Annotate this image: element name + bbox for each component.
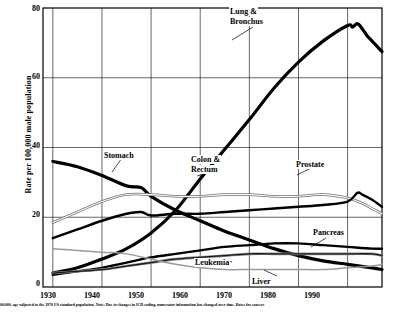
- y-tick-0: 0: [14, 279, 40, 288]
- annotation-colon-line2: Rectum: [190, 165, 219, 174]
- annotation-lung-line1: Lung &: [229, 7, 258, 16]
- figure-footnote: 00,000, age-adjusted to the 1970 US stan…: [0, 303, 403, 308]
- x-tick-1950: 1950: [119, 291, 153, 300]
- annotation-pancreas: Pancreas: [312, 228, 345, 237]
- y-tick-80: 80: [14, 4, 40, 13]
- y-axis-label: Rate per 100,000 male population: [24, 60, 33, 210]
- annotation-prostate: Prostate: [295, 160, 325, 169]
- x-tick-1970: 1970: [207, 291, 241, 300]
- cancer-mortality-figure: Rate per 100,000 male population 80 60 4…: [0, 0, 403, 315]
- x-tick-1960: 1960: [163, 291, 197, 300]
- y-tick-20: 20: [14, 210, 40, 219]
- y-tick-40: 40: [14, 141, 40, 150]
- x-tick-1940: 1940: [75, 291, 109, 300]
- annotation-lung-line2: Bronchus: [229, 17, 264, 26]
- x-tick-1990: 1990: [295, 291, 329, 300]
- annotation-liver: Liver: [251, 277, 272, 286]
- annotation-stomach: Stomach: [103, 151, 135, 160]
- x-tick-1980: 1980: [251, 291, 285, 300]
- annotation-leukemia: Leukemia: [194, 258, 230, 267]
- x-tick-1930: 1930: [31, 291, 65, 300]
- y-tick-60: 60: [14, 72, 40, 81]
- annotation-colon-line1: Colon &: [190, 155, 221, 164]
